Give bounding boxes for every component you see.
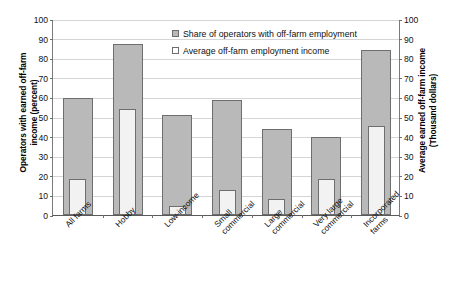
x-axis-label-3: Small commercial (212, 192, 256, 236)
x-axis-labels: All farmsHobbyLow-incomeSmall commercial… (0, 0, 451, 283)
x-axis-label-1: Hobby (113, 205, 137, 229)
x-axis-label-0: All farms (63, 199, 93, 229)
chart-container: Operators with earned off-farm income (p… (0, 0, 451, 283)
x-axis-label-6: Incorporated farms (361, 189, 408, 236)
x-axis-label-4: Large commercial (262, 192, 306, 236)
x-axis-label-5: Very large commercial (311, 192, 355, 236)
x-axis-label-2: Low-income (162, 190, 201, 229)
